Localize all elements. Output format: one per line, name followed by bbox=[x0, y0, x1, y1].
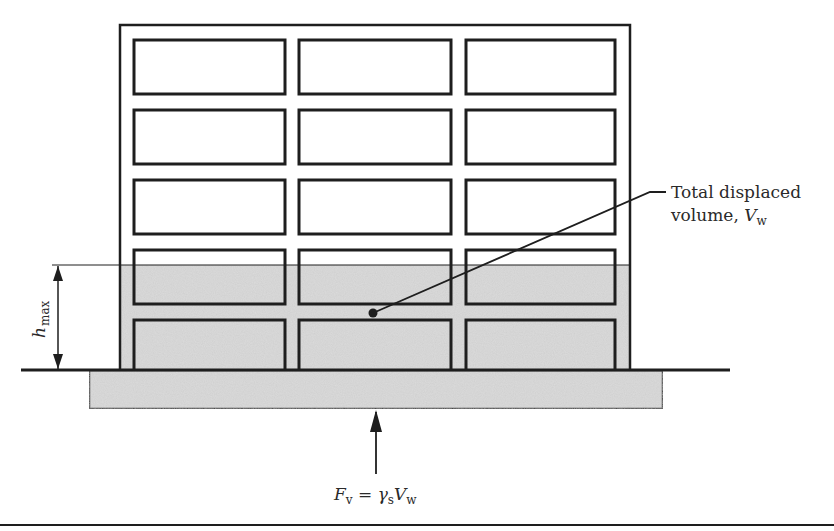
window bbox=[466, 110, 615, 164]
window bbox=[134, 180, 285, 234]
arrow-up-icon bbox=[53, 266, 63, 281]
window bbox=[299, 40, 451, 94]
h-max-symbol: h bbox=[29, 327, 49, 338]
displaced-volume-label: Total displaced volume, Vw bbox=[670, 182, 801, 228]
force-rhs-subscript: w bbox=[406, 493, 417, 507]
foundation-slab bbox=[89, 370, 663, 409]
window bbox=[134, 40, 285, 94]
arrow-up-icon bbox=[370, 410, 382, 432]
h-max-dimension bbox=[53, 266, 63, 369]
window bbox=[299, 180, 451, 234]
buoyancy-diagram: h max Total displaced volume, Vw Fv = γs… bbox=[0, 0, 834, 531]
h-max-subscript: max bbox=[38, 300, 52, 326]
svg-text:volume, Vw: volume, Vw bbox=[670, 205, 768, 228]
window bbox=[466, 180, 615, 234]
displaced-volume-line2: volume, bbox=[670, 205, 744, 225]
building-windows bbox=[134, 40, 615, 370]
displaced-volume-line1: Total displaced bbox=[671, 182, 801, 202]
arrow-down-icon bbox=[53, 354, 63, 369]
leader-dot-icon bbox=[369, 309, 378, 318]
displaced-volume-region bbox=[120, 265, 630, 370]
uplift-force-arrow bbox=[370, 410, 382, 474]
force-equals: = bbox=[353, 484, 378, 504]
h-max-label: h max bbox=[29, 300, 52, 338]
window bbox=[134, 110, 285, 164]
window bbox=[299, 110, 451, 164]
window bbox=[466, 40, 615, 94]
force-formula: Fv = γsVw bbox=[333, 484, 417, 507]
displaced-volume-subscript: w bbox=[757, 214, 768, 228]
